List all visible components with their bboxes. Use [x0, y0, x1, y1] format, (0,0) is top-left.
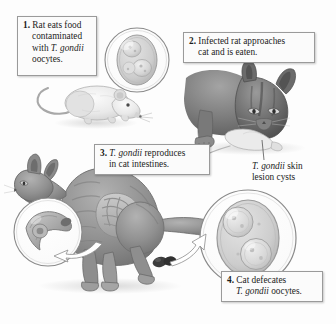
- callout-box-1: 1. Rat eats food contaminated with T. go…: [17, 16, 97, 76]
- callout-3-species: T. gondii: [109, 148, 142, 158]
- callout-3-line1-post: reproduces: [142, 148, 185, 158]
- skin-lesion-species: T. gondii: [252, 161, 285, 171]
- callout-2-line1: Infected rat approaches: [198, 36, 285, 46]
- callout-3-number: 3.: [100, 148, 107, 158]
- callout-box-4: 4. Cat defecates T. gondii oocytes.: [221, 271, 323, 302]
- toxoplasma-life-cycle-figure: 1. Rat eats food contaminated with T. go…: [0, 0, 336, 324]
- callout-1-species: T. gondii: [51, 43, 84, 53]
- callout-1-line4: oocytes.: [23, 54, 91, 65]
- callout-1-line3-pre: with: [32, 43, 51, 53]
- callout-4-species: T. gondii: [236, 286, 269, 296]
- callout-4-line2: T. gondii oocytes.: [227, 286, 317, 297]
- skin-lesion-post: skin: [285, 161, 303, 171]
- callout-4-number: 4.: [227, 275, 234, 285]
- callout-1-line3: with T. gondii: [23, 43, 91, 54]
- skin-lesion-line2: lesion cysts: [252, 172, 295, 182]
- callout-1-line2: contaminated: [23, 31, 91, 42]
- callout-2-number: 2.: [189, 36, 196, 46]
- oocyte-magnifier-top: [105, 28, 169, 92]
- callout-3-line2: in cat intestines.: [100, 159, 204, 170]
- callout-1-line1: Rat eats food: [32, 20, 81, 30]
- callout-4-line2-post: oocytes.: [269, 286, 302, 296]
- callout-2-line2: cat and is eaten.: [189, 47, 309, 58]
- callout-4-line1: Cat defecates: [236, 275, 286, 285]
- callout-box-2: 2. Infected rat approaches cat and is ea…: [183, 32, 315, 63]
- callout-box-3: 3. T. gondii reproduces in cat intestine…: [94, 144, 210, 175]
- callout-1-number: 1.: [23, 20, 30, 30]
- skin-lesion-label: T. gondii skin lesion cysts: [252, 161, 303, 184]
